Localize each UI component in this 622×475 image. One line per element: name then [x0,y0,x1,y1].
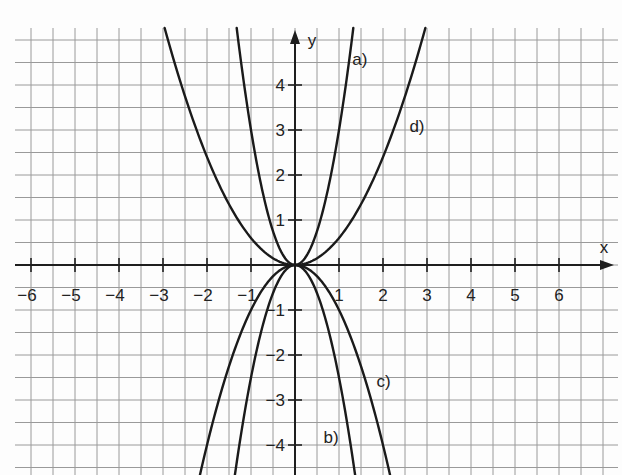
parabola-chart: −6−5−4−3−2−11234564321−1−2−3−4xya)b)c)d) [0,0,622,475]
y-tick-label: 1 [276,211,285,230]
y-tick-label: −1 [266,301,285,320]
x-tick-label: −3 [149,286,168,305]
plot-area: −6−5−4−3−2−11234564321−1−2−3−4xya)b)c)d) [0,0,622,475]
x-tick-label: 1 [334,286,343,305]
y-axis-label: y [308,31,317,50]
curve-label-b: b) [324,428,339,447]
x-tick-label: −5 [61,286,80,305]
y-tick-label: −4 [266,436,285,455]
grid-lines [15,28,618,475]
x-axis-arrow-icon [600,260,614,270]
y-tick-label: 2 [276,166,285,185]
y-tick-label: −2 [266,346,285,365]
x-tick-label: 3 [422,286,431,305]
x-tick-label: −1 [237,286,256,305]
x-tick-label: 6 [554,286,563,305]
x-tick-label: −4 [105,286,124,305]
x-tick-label: −2 [193,286,212,305]
y-tick-label: −3 [266,391,285,410]
x-axis-label: x [600,238,609,257]
y-tick-label: 4 [276,76,285,95]
x-tick-label: −6 [17,286,36,305]
curve-label-d: d) [409,117,424,136]
y-axis-arrow-icon [290,30,300,44]
axes [15,30,614,475]
curve-label-a: a) [352,50,367,69]
x-tick-label: 5 [510,286,519,305]
y-tick-label: 3 [276,121,285,140]
x-tick-label: 2 [378,286,387,305]
x-tick-label: 4 [466,286,475,305]
curve-label-c: c) [376,372,390,391]
